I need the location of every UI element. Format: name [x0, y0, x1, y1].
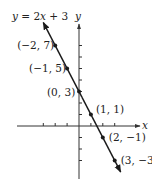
point-label: (−1, 5)	[29, 62, 66, 74]
data-point	[101, 136, 105, 140]
data-point	[89, 113, 93, 117]
point-label: (−2, 7)	[17, 39, 54, 51]
line-chart: x y y = 2x + 3 (−2, 7)(−1, 5)(0, 3)(1, 1…	[0, 0, 152, 186]
y-axis-label: y	[74, 10, 82, 22]
point-label: (0, 3)	[47, 86, 75, 98]
data-point	[77, 90, 81, 94]
x-axis-label: x	[142, 119, 148, 131]
data-point	[113, 159, 117, 163]
point-label: (1, 1)	[96, 103, 124, 115]
point-label: (2, −1)	[109, 131, 146, 143]
point-label: (3, −3)	[121, 154, 152, 166]
chart-title: y = 2x + 3	[11, 10, 68, 22]
